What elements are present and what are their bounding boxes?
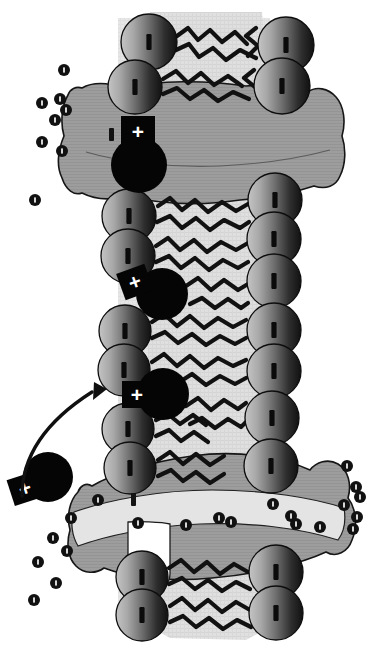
ion-22 bbox=[65, 512, 77, 524]
lipid-head-marker bbox=[273, 564, 278, 580]
lipid-head-marker bbox=[121, 362, 126, 378]
ion-mark bbox=[272, 501, 274, 506]
ion-18 bbox=[225, 516, 237, 528]
diagram-svg: ++++ bbox=[0, 0, 379, 645]
lipid-head-right-7 bbox=[245, 391, 299, 445]
ion-25 bbox=[32, 556, 44, 568]
ion-mark bbox=[55, 580, 57, 585]
charge-symbol: + bbox=[132, 120, 144, 143]
ion-mark bbox=[185, 522, 187, 527]
ion-13 bbox=[347, 523, 359, 535]
ion-28 bbox=[267, 498, 279, 510]
charge-symbol: + bbox=[131, 383, 143, 406]
ion-23 bbox=[47, 532, 59, 544]
ion-mark bbox=[59, 96, 61, 101]
ion-mark bbox=[355, 484, 357, 489]
ion-16 bbox=[180, 519, 192, 531]
lipid-head-right-10 bbox=[249, 586, 303, 640]
lipid-head-marker bbox=[268, 458, 273, 474]
ion-17 bbox=[213, 512, 225, 524]
ion-mark bbox=[65, 107, 67, 112]
lipid-head-left-1 bbox=[108, 60, 162, 114]
lipid-head-marker bbox=[271, 273, 276, 289]
ion-11 bbox=[338, 499, 350, 511]
lipid-head-marker bbox=[271, 322, 276, 338]
lipid-head-left-9 bbox=[116, 589, 168, 641]
lipid-head-marker bbox=[122, 323, 127, 339]
ion-mark bbox=[346, 463, 348, 468]
ion-mark bbox=[41, 100, 43, 105]
ion-5 bbox=[36, 136, 48, 148]
ion-mark bbox=[319, 524, 321, 529]
ion-mark bbox=[66, 548, 68, 553]
ion-2 bbox=[54, 93, 66, 105]
ion-3 bbox=[60, 104, 72, 116]
ion-10 bbox=[354, 491, 366, 503]
ion-mark bbox=[33, 597, 35, 602]
lipid-head-marker bbox=[126, 208, 131, 224]
ion-8 bbox=[341, 460, 353, 472]
ion-6 bbox=[56, 145, 68, 157]
ion-mark bbox=[61, 148, 63, 153]
ion-0 bbox=[58, 64, 70, 76]
lipid-head-marker bbox=[271, 231, 276, 247]
lipid-head-marker bbox=[146, 34, 151, 50]
lipid-head-marker bbox=[273, 605, 278, 621]
ion-mark bbox=[41, 139, 43, 144]
ion-mark bbox=[54, 117, 56, 122]
ion-1 bbox=[36, 97, 48, 109]
lipid-head-right-4 bbox=[247, 254, 301, 308]
lipid-head-marker bbox=[139, 569, 144, 585]
ion-mark bbox=[52, 535, 54, 540]
lipid-head-marker bbox=[272, 192, 277, 208]
ion-mark bbox=[352, 526, 354, 531]
ion-mark bbox=[137, 520, 139, 525]
ion-mark bbox=[34, 197, 36, 202]
lipid-head-right-1 bbox=[254, 58, 310, 114]
ion-21 bbox=[314, 521, 326, 533]
ion-14 bbox=[92, 494, 104, 506]
lipid-head-marker bbox=[271, 363, 276, 379]
lipid-head-marker bbox=[269, 410, 274, 426]
ion-mark bbox=[70, 515, 72, 520]
ion-7 bbox=[29, 194, 41, 206]
lipid-head-marker bbox=[125, 421, 130, 437]
ion-mark bbox=[37, 559, 39, 564]
ion-27 bbox=[28, 594, 40, 606]
ion-15 bbox=[132, 517, 144, 529]
lipid-head-right-8 bbox=[244, 439, 298, 493]
lipid-head-marker bbox=[139, 607, 144, 623]
ion-mark bbox=[218, 515, 220, 520]
ion-mark bbox=[343, 502, 345, 507]
lipid-head-marker bbox=[127, 460, 132, 476]
lipid-head-left-7 bbox=[104, 442, 156, 494]
charged-molecule-charge-4: + bbox=[7, 452, 73, 506]
ion-mark bbox=[290, 513, 292, 518]
ion-4 bbox=[49, 114, 61, 126]
lipid-head-marker bbox=[283, 37, 288, 53]
ion-24 bbox=[61, 545, 73, 557]
membrane-diagram-canvas: ++++ bbox=[0, 0, 379, 645]
ion-mark bbox=[230, 519, 232, 524]
ion-mark bbox=[295, 521, 297, 526]
ion-mark bbox=[63, 67, 65, 72]
ion-mark bbox=[359, 494, 361, 499]
ion-20 bbox=[290, 518, 302, 530]
ion-12 bbox=[351, 511, 363, 523]
lipid-head-marker bbox=[279, 78, 284, 94]
ion-mark bbox=[356, 514, 358, 519]
charge-badge: + bbox=[122, 381, 152, 408]
lipid-head-marker bbox=[125, 248, 130, 264]
lipid-head-marker bbox=[132, 79, 137, 95]
ion-26 bbox=[50, 577, 62, 589]
ion-mark bbox=[97, 497, 99, 502]
charge-badge: + bbox=[121, 116, 155, 148]
lipid-head-right-6 bbox=[247, 344, 301, 398]
